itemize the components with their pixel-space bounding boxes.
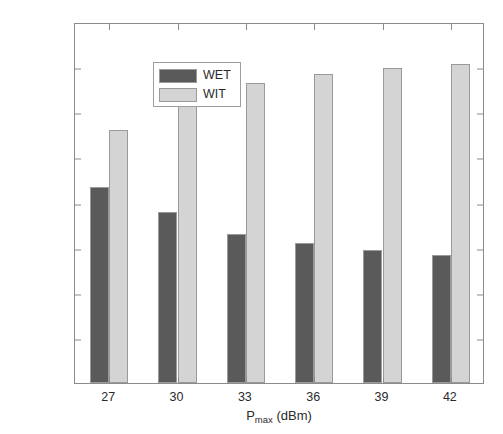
bar-wet-36 — [295, 243, 314, 383]
y-tick-mark — [75, 204, 81, 205]
x-tick-mark — [383, 377, 384, 383]
y-tick-mark-right — [477, 249, 483, 250]
legend-swatch-wet — [159, 69, 197, 83]
x-tick-mark-top — [451, 24, 452, 30]
x-axis-label-base: P — [246, 408, 255, 423]
bar-wet-30 — [158, 212, 177, 383]
y-tick-mark-right — [477, 294, 483, 295]
bar-wet-42 — [432, 255, 451, 383]
x-tick-label: 33 — [215, 390, 275, 404]
x-tick-label: 30 — [147, 390, 207, 404]
x-tick-label: 42 — [420, 390, 480, 404]
x-tick-mark-top — [109, 24, 110, 30]
bar-wit-33 — [246, 83, 265, 383]
y-tick-mark — [75, 294, 81, 295]
x-tick-mark — [314, 377, 315, 383]
x-tick-mark-top — [314, 24, 315, 30]
legend-label-wet: WET — [203, 69, 231, 82]
y-tick-mark — [75, 159, 81, 160]
bar-wit-42 — [451, 64, 470, 383]
bar-wit-39 — [383, 68, 402, 383]
x-tick-mark — [178, 377, 179, 383]
x-axis-label-unit: (dBm) — [273, 408, 312, 423]
bar-wet-39 — [363, 250, 382, 383]
x-tick-label: 36 — [283, 390, 343, 404]
y-tick-mark — [75, 339, 81, 340]
x-tick-mark — [451, 377, 452, 383]
x-tick-mark-top — [178, 24, 179, 30]
y-tick-mark-right — [477, 339, 483, 340]
plot-area: WET WIT — [74, 23, 484, 384]
y-tick-mark-right — [477, 204, 483, 205]
y-tick-mark — [75, 69, 81, 70]
legend: WET WIT — [153, 62, 241, 107]
x-tick-mark-top — [383, 24, 384, 30]
bar-wit-30 — [178, 104, 197, 383]
bar-wet-27 — [90, 187, 109, 383]
x-tick-mark — [109, 377, 110, 383]
x-axis-label: Pmax (dBm) — [246, 408, 312, 423]
y-tick-mark — [75, 114, 81, 115]
legend-item-wet: WET — [159, 67, 235, 84]
y-tick-mark-right — [477, 159, 483, 160]
x-tick-label: 27 — [78, 390, 138, 404]
bar-wit-27 — [109, 130, 128, 383]
y-tick-mark — [75, 249, 81, 250]
bar-wit-36 — [314, 74, 333, 383]
y-tick-mark-right — [477, 114, 483, 115]
x-tick-mark-top — [246, 24, 247, 30]
legend-label-wit: WIT — [203, 88, 226, 101]
legend-item-wit: WIT — [159, 86, 235, 103]
x-axis-label-subscript: max — [255, 414, 273, 425]
y-tick-mark-right — [477, 69, 483, 70]
x-tick-mark — [246, 377, 247, 383]
y-axis: 00.10.20.30.40.50.60.70.8 — [0, 0, 74, 434]
legend-swatch-wit — [159, 88, 197, 102]
x-tick-label: 39 — [352, 390, 412, 404]
chart-figure: 00.10.20.30.40.50.60.70.8 Time allocatio… — [0, 0, 503, 434]
bar-wet-33 — [227, 234, 246, 383]
